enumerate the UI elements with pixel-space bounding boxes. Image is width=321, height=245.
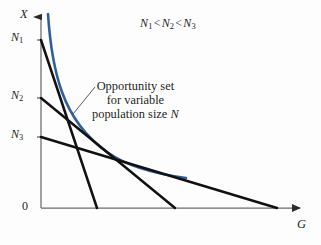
inequality-n1-sub: 1 [148,21,152,31]
inequality-n2-main: N [162,16,170,30]
figure-canvas [0,0,321,245]
y-axis-label: X [20,8,28,22]
origin-label: 0 [22,200,28,213]
annotation-line-2: for variable [92,93,179,107]
inequality-note: N1<N2<N3 [140,17,196,32]
y-tick-label-n3: N3 [11,128,23,143]
inequality-n3-main: N [183,16,191,30]
x-axis-label: G [297,218,306,232]
y-tick-label-n3-sub: 3 [19,132,23,142]
annotation-line-3-text: population size [92,107,167,121]
y-tick-label-n1-sub: 1 [19,35,23,45]
budget-line-n3 [41,137,277,208]
inequality-relation-2: < [174,16,183,30]
y-tick-label-n2-sub: 2 [19,93,23,103]
inequality-n3-sub: 3 [192,21,196,31]
annotation-line-1: Opportunity set [92,79,179,93]
inequality-n1-main: N [140,16,148,30]
annotation-line-3-variable: N [170,107,178,121]
inequality-relation-1: < [153,16,162,30]
y-tick-label-n2-main: N [11,88,19,102]
opportunity-set-annotation: Opportunity set for variable population … [92,79,179,121]
y-tick-label-n3-main: N [11,127,19,141]
budget-line-n1 [41,40,97,208]
y-tick-label-n1: N1 [11,31,23,46]
y-tick-label-n2: N2 [11,89,23,104]
y-tick-label-n1-main: N [11,30,19,44]
annotation-line-3: population size N [92,107,179,121]
figure-root: X G 0 N1 N2 N3 N1<N2<N3 Opportunity set … [0,0,321,245]
